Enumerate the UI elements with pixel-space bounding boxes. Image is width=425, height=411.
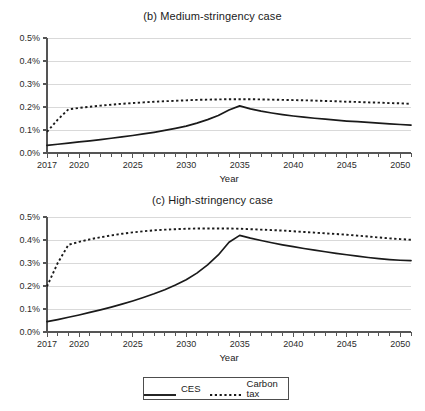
x-axis-tick-label: 2035: [230, 160, 250, 170]
series-line-carbon-tax: [47, 229, 411, 287]
x-axis-tick-label: 2025: [123, 339, 143, 349]
x-axis-tick-label: 2045: [337, 339, 357, 349]
x-axis-tick-label: 2017: [37, 160, 57, 170]
x-axis-tick-label: 2025: [123, 160, 143, 170]
y-axis-tick-label: 0.1%: [19, 304, 40, 314]
y-axis-tick-label: 0.3%: [19, 79, 40, 89]
chart-legend: CES Carbon tax: [143, 377, 289, 400]
y-axis-tick-label: 0.4%: [19, 56, 40, 66]
y-axis-tick-label: 0.4%: [19, 235, 40, 245]
x-axis-tick-label: 2020: [69, 339, 89, 349]
x-axis-tick-label: 2020: [69, 160, 89, 170]
y-axis-tick-label: 0.5%: [19, 212, 40, 222]
y-axis-tick-label: 0.2%: [19, 281, 40, 291]
legend-item-ces: CES: [144, 384, 201, 394]
x-axis-tick-label: 2035: [230, 339, 250, 349]
dotted-line-swatch: [210, 385, 242, 393]
x-axis-tick-label: 2050: [390, 339, 410, 349]
y-axis-tick-label: 0.0%: [19, 327, 40, 337]
x-axis-tick-label: 2040: [283, 160, 303, 170]
y-axis-tick-label: 0.5%: [19, 33, 40, 43]
x-axis-tick-label: 2045: [337, 160, 357, 170]
chart-svg-b: 0.0%0.1%0.2%0.3%0.4%0.5%2017202020252030…: [0, 0, 425, 192]
chart-svg-c: 0.0%0.1%0.2%0.3%0.4%0.5%2017202020252030…: [0, 192, 425, 364]
chart-panel-high-stringency: (c) High-stringency case 0.0%0.1%0.2%0.3…: [0, 192, 425, 364]
y-axis-tick-label: 0.2%: [19, 102, 40, 112]
x-axis-tick-label: 2040: [283, 339, 303, 349]
figure-container: (b) Medium-stringency case 0.0%0.1%0.2%0…: [0, 0, 425, 411]
plot-area-c: 0.0%0.1%0.2%0.3%0.4%0.5%2017202020252030…: [0, 192, 425, 364]
legend-item-carbon-tax: Carbon tax: [210, 379, 288, 398]
x-axis-tick-label: 2030: [176, 339, 196, 349]
x-axis-tick-label: 2017: [37, 339, 57, 349]
y-axis-tick-label: 0.1%: [19, 125, 40, 135]
y-axis-tick-label: 0.3%: [19, 258, 40, 268]
chart-panel-medium-stringency: (b) Medium-stringency case 0.0%0.1%0.2%0…: [0, 0, 425, 192]
x-axis-tick-label: 2030: [176, 160, 196, 170]
x-axis-title: Year: [219, 173, 238, 184]
solid-line-swatch: [144, 385, 176, 393]
legend-label-ces: CES: [181, 384, 201, 394]
x-axis-tick-label: 2050: [390, 160, 410, 170]
series-line-carbon-tax: [47, 99, 411, 132]
plot-area-b: 0.0%0.1%0.2%0.3%0.4%0.5%2017202020252030…: [0, 0, 425, 192]
series-line-ces: [47, 106, 411, 146]
legend-label-carbon-tax: Carbon tax: [247, 379, 288, 398]
x-axis-title: Year: [219, 352, 238, 363]
y-axis-tick-label: 0.0%: [19, 148, 40, 158]
